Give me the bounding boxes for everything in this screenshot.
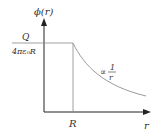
- y-axis-label: ϕ(r): [34, 6, 53, 17]
- potential-diagram: ϕ(r) r R Q 4πε₀R ∝ 1 r: [0, 0, 161, 137]
- curve-label-numerator: 1: [110, 63, 115, 72]
- x-axis-arrow-icon: [143, 109, 151, 115]
- x-axis-label: r: [144, 120, 150, 131]
- curve-label-denominator: r: [109, 73, 114, 82]
- y-axis-arrow-icon: [41, 18, 47, 26]
- y-level-denominator: 4πε₀R: [11, 47, 36, 56]
- x-tick-label: R: [68, 118, 77, 129]
- curve-label-prefix: ∝: [100, 67, 106, 77]
- y-level-numerator: Q: [22, 32, 30, 42]
